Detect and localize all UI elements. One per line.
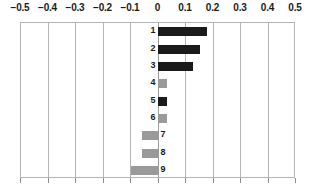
bar-row: 2 — [20, 45, 295, 54]
x-tick-label: 0.1 — [178, 2, 191, 13]
bars-layer: 123456789 — [20, 22, 295, 178]
bar-row: 9 — [20, 166, 295, 175]
bar-row: 7 — [20, 131, 295, 140]
x-tick-label: −0.2 — [93, 2, 112, 13]
bar — [158, 45, 201, 54]
x-tick-label: 0 — [155, 2, 160, 13]
bar-label: 1 — [149, 25, 156, 36]
x-tick-label: 0.3 — [233, 2, 246, 13]
bar — [142, 131, 157, 140]
bar-label: 2 — [149, 43, 156, 54]
x-tick-label: −0.1 — [121, 2, 140, 13]
x-axis-labels: −0.5−0.4−0.3−0.2−0.100.10.20.30.40.5 — [0, 0, 319, 22]
x-tick-label: −0.4 — [38, 2, 57, 13]
x-tick-mark — [103, 178, 104, 183]
bar-row: 8 — [20, 149, 295, 158]
x-tick-mark — [20, 178, 21, 183]
bar — [158, 114, 168, 123]
bar-label: 7 — [161, 129, 166, 140]
bar-chart: −0.5−0.4−0.3−0.2−0.100.10.20.30.40.5 123… — [0, 0, 319, 189]
bar — [131, 166, 157, 175]
x-tick-label: −0.5 — [11, 2, 30, 13]
x-tick-mark — [295, 178, 296, 183]
x-tick-mark — [185, 178, 186, 183]
bar-label: 5 — [149, 95, 156, 106]
x-tick-mark — [213, 178, 214, 183]
x-tick-label: 0.2 — [206, 2, 219, 13]
x-tick-label: −0.3 — [66, 2, 85, 13]
bar-label: 6 — [149, 112, 156, 123]
x-tick-mark — [240, 178, 241, 183]
x-tick-mark — [48, 178, 49, 183]
bar-row: 6 — [20, 114, 295, 123]
bar — [142, 149, 157, 158]
x-tick-mark — [158, 178, 159, 183]
bar-label: 3 — [149, 60, 156, 71]
bar — [158, 62, 194, 71]
bar — [158, 79, 168, 88]
bar-row: 5 — [20, 97, 295, 106]
x-tick-mark — [130, 178, 131, 183]
bar — [158, 27, 208, 36]
x-tick-label: 0.5 — [288, 2, 301, 13]
bar — [158, 97, 168, 106]
bar-label: 8 — [161, 147, 166, 158]
bar-row: 3 — [20, 62, 295, 71]
bar-label: 9 — [161, 164, 166, 175]
bar-label: 4 — [149, 77, 156, 88]
x-tick-mark — [268, 178, 269, 183]
bar-row: 4 — [20, 79, 295, 88]
x-tick-label: 0.4 — [261, 2, 274, 13]
x-tick-mark — [75, 178, 76, 183]
bar-row: 1 — [20, 27, 295, 36]
